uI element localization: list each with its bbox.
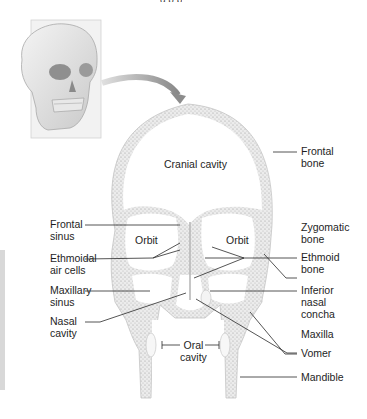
label-ethmoid-bone: Ethmoid bone [301,251,340,275]
label-orbit-left: Orbit [135,234,158,246]
maxillary-sinus-right [208,274,248,304]
label-frontal-sinus: Frontal sinus [50,218,83,242]
label-maxilla: Maxilla [301,328,334,340]
maxillary-sinus-left [132,274,172,304]
label-ethmoidal-air-cells: Ethmoidal air cells [50,252,97,276]
label-orbit-right: Orbit [226,234,249,246]
diagram-stage: g p p Cranial cavity Orbit Orbit Oral ca… [0,0,367,419]
label-frontal-bone: Frontal bone [301,145,334,169]
skull-inset [21,20,101,138]
clipped-caption-fragment: g p p [160,0,182,2]
tooth-right [220,333,230,357]
label-vomer: Vomer [301,347,331,359]
label-maxillary-sinus: Maxillary sinus [50,284,91,308]
skull-orbit-right [79,63,93,77]
label-inferior-nasal-concha: Inferior nasal concha [301,284,335,320]
tooth-left [146,333,156,357]
label-oral-cavity: Oral cavity [180,339,207,363]
label-cranial-cavity: Cranial cavity [164,158,227,170]
skull-teeth [52,98,84,112]
pointer-arrow [102,77,178,95]
label-nasal-cavity: Nasal cavity [50,315,77,339]
skull-orbit-left [49,64,71,80]
label-zygomatic-bone: Zygomatic bone [301,221,349,245]
label-mandible: Mandible [301,371,344,383]
inferior-nasal-concha-shape [201,290,211,306]
